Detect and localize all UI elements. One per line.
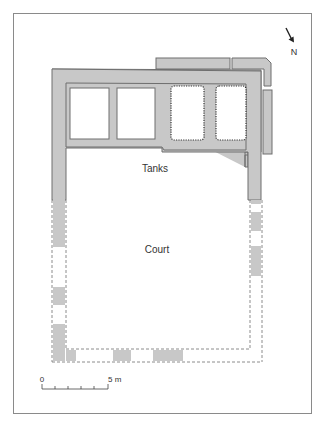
north-label: N (291, 47, 298, 57)
scale-end-label: 5 m (108, 375, 122, 384)
tanks-label: Tanks (142, 163, 168, 174)
scale-start-label: 0 (40, 375, 45, 384)
tank-4-reconstructed (216, 86, 246, 140)
court-wall-fragments (53, 199, 261, 361)
north-arrow-icon (286, 28, 294, 43)
tank-1 (70, 88, 109, 139)
court-walls (52, 200, 262, 362)
scale-bar (42, 384, 108, 389)
site-plan: Tanks Court N 0 5 m (0, 0, 331, 429)
tank-2 (117, 88, 155, 139)
court-label: Court (145, 244, 170, 255)
tank-3-reconstructed (171, 86, 204, 140)
